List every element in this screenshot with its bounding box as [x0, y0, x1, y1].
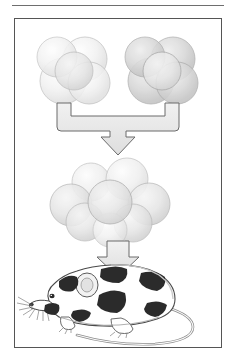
chimeric-mouse — [17, 265, 193, 344]
embryo-aggregate — [50, 158, 170, 247]
figure-frame — [14, 18, 222, 348]
diagram-artwork — [15, 19, 221, 347]
merge-bracket-arrow — [57, 103, 179, 155]
diagram-stage — [15, 19, 221, 347]
figure-root — [0, 0, 236, 361]
top-horizontal-rule — [12, 5, 224, 6]
embryo-right — [125, 37, 198, 104]
embryo-left — [37, 37, 110, 104]
